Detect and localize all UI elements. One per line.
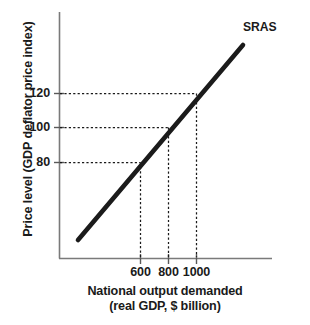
- series-label-sras: SRAS: [243, 20, 276, 34]
- x-axis-title-line2: (real GDP, $ billion): [40, 299, 290, 314]
- x-axis-title: National output demanded (real GDP, $ bi…: [40, 284, 290, 314]
- x-tick-label-1000: 1000: [174, 265, 219, 279]
- sras-chart: 120 100 80 600 800 1000 SRAS Price level…: [0, 0, 310, 325]
- x-axis-title-line1: National output demanded: [40, 284, 290, 299]
- y-axis-title: Price level (GDP deflator price index): [21, 9, 35, 249]
- sras-curve-line: [78, 45, 243, 240]
